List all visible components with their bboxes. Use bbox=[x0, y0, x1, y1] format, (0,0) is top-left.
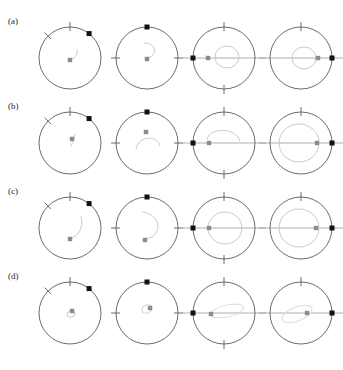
panel-d-3 bbox=[182, 269, 266, 354]
panel-a-2 bbox=[105, 14, 189, 99]
row-label-c: (c) bbox=[8, 186, 18, 196]
panel-b-3 bbox=[182, 99, 266, 184]
row-label-d: (d) bbox=[8, 271, 19, 281]
row-label-b: (b) bbox=[8, 101, 19, 111]
cropped-caption-strip bbox=[0, 0, 336, 9]
panel-d-2 bbox=[105, 269, 189, 354]
figure-row: (a) bbox=[0, 14, 336, 99]
panel-b-4 bbox=[259, 99, 343, 184]
figure-row: (b) bbox=[0, 99, 336, 184]
panel-a-1 bbox=[28, 14, 112, 99]
row-label-a: (a) bbox=[8, 16, 18, 26]
figure-row: (d) bbox=[0, 269, 336, 354]
panel-c-1 bbox=[28, 184, 112, 269]
panel-b-2 bbox=[105, 99, 189, 184]
panel-d-4 bbox=[259, 269, 343, 354]
panel-d-1 bbox=[28, 269, 112, 354]
panel-a-4 bbox=[259, 14, 343, 99]
panel-b-1 bbox=[28, 99, 112, 184]
panel-c-4 bbox=[259, 184, 343, 269]
panel-a-3 bbox=[182, 14, 266, 99]
figure-row: (c) bbox=[0, 184, 336, 269]
panel-c-2 bbox=[105, 184, 189, 269]
panel-c-3 bbox=[182, 184, 266, 269]
